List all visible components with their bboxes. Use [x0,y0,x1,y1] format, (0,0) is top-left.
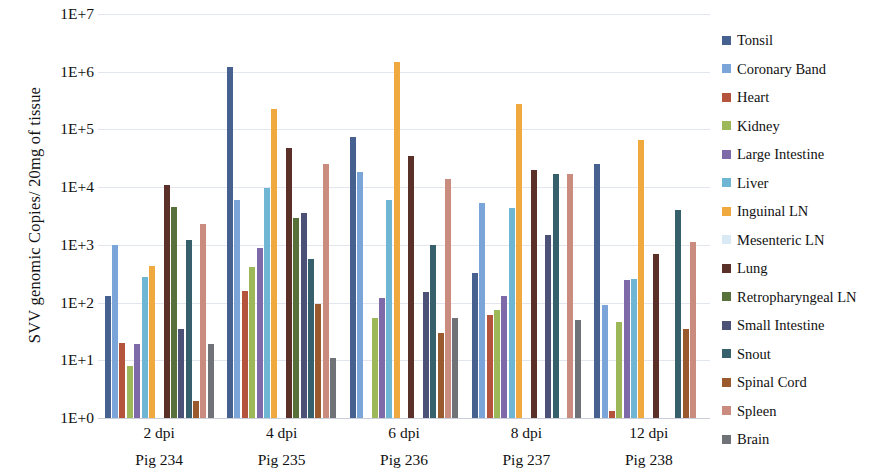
legend-item[interactable]: Spinal Cord [722,368,888,397]
legend-item-label: Small Intestine [737,318,824,333]
legend-item[interactable]: Snout [722,340,888,369]
bar [616,322,622,418]
legend-item-label: Brain [737,432,769,447]
legend-item[interactable]: Inguinal LN [722,197,888,226]
bar [379,298,385,418]
legend-swatch-icon [722,36,731,45]
legend-item[interactable]: Retropharyngeal LN [722,283,888,312]
legend-item-label: Spinal Cord [737,375,807,390]
legend-item[interactable]: Tonsil [722,26,888,55]
bar [430,245,436,418]
bar [149,266,155,418]
bar [553,174,559,418]
bar [445,179,451,418]
legend-swatch-icon [722,292,731,301]
legend-swatch-icon [722,378,731,387]
bar [234,200,240,418]
legend-item-label: Retropharyngeal LN [737,290,857,305]
legend-item[interactable]: Liver [722,169,888,198]
legend-item[interactable]: Coronary Band [722,55,888,84]
bar [638,140,644,418]
bar [186,240,192,418]
legend-swatch-icon [722,93,731,102]
bar [271,109,277,418]
bar [301,213,307,418]
y-tick-label: 1E+1 [28,352,94,368]
bar [105,296,111,418]
bar [472,273,478,418]
bar [193,401,199,418]
bar-group [465,14,587,418]
bar [545,235,551,418]
bar [323,164,329,418]
bar [624,280,630,418]
bar [531,170,537,418]
legend-item[interactable]: Spleen [722,397,888,426]
y-tick-label: 1E+5 [28,121,94,137]
bar [690,242,696,418]
bar-group [220,14,342,418]
legend-swatch-icon [722,435,731,444]
y-axis-tick-labels: 1E+71E+61E+51E+41E+31E+21E+11E+0 [28,0,94,432]
gridline [98,418,710,419]
bar [675,210,681,418]
bar [479,203,485,418]
bar [134,344,140,418]
bar [594,164,600,418]
legend-item[interactable]: Mesenteric LN [722,226,888,255]
bar [142,277,148,418]
x-axis-pig-label: Pig 237 [466,451,586,469]
legend-swatch-icon [722,207,731,216]
legend-item[interactable]: Lung [722,254,888,283]
legend-swatch-icon [722,150,731,159]
legend-item[interactable]: Kidney [722,112,888,141]
bar [516,104,522,418]
bar [208,344,214,418]
bar [372,318,378,418]
x-axis-dpi-label: 4 dpi [222,424,342,442]
legend-item-label: Lung [737,261,768,276]
bar [227,67,233,418]
y-tick-label: 1E+6 [28,64,94,80]
bar [315,304,321,418]
bar [683,329,689,418]
y-tick-label: 1E+0 [28,410,94,426]
bar [408,156,414,418]
bar [257,248,263,419]
bar [178,329,184,418]
x-axis-pig-label: Pig 238 [589,451,709,469]
bar [653,254,659,418]
legend-item[interactable]: Heart [722,83,888,112]
legend-item[interactable]: Large Intestine [722,140,888,169]
y-tick-label: 1E+2 [28,295,94,311]
bar [112,245,118,418]
x-axis-dpi-label: 6 dpi [344,424,464,442]
bar [567,174,573,418]
x-axis-pig-label: Pig 236 [344,451,464,469]
bar [286,148,292,418]
bar [438,333,444,418]
bar [350,137,356,418]
bar [308,259,314,418]
legend-swatch-icon [722,406,731,415]
bar [609,411,615,418]
x-axis-pig-label: Pig 235 [222,451,342,469]
bar [631,279,637,418]
bar [575,320,581,418]
legend-swatch-icon [722,264,731,273]
bar [602,305,608,418]
legend-item[interactable]: Small Intestine [722,311,888,340]
chart-legend: TonsilCoronary BandHeartKidneyLarge Inte… [722,26,888,454]
legend-item-label: Coronary Band [737,62,826,77]
legend-item[interactable]: Brain [722,425,888,454]
bar [357,172,363,418]
bar [394,62,400,418]
legend-item-label: Tonsil [737,33,773,48]
bar [200,224,206,418]
y-tick-label: 1E+3 [28,237,94,253]
bar [249,267,255,418]
bar-group [98,14,220,418]
legend-swatch-icon [722,321,731,330]
bar [423,292,429,418]
bar [386,200,392,418]
